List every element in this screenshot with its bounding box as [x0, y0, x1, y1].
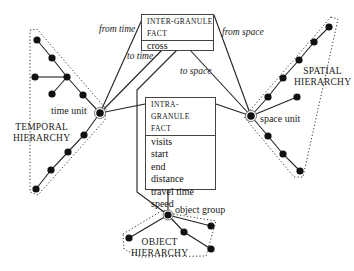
measure-cross: cross: [142, 41, 213, 51]
measure-end: end: [146, 161, 215, 173]
label-from-space: from space: [222, 27, 264, 37]
measure-travel-time: travel time: [146, 186, 215, 198]
inter-granule-title: INTER-GRANULE: [142, 16, 213, 28]
measure-start: start: [146, 148, 215, 160]
measure-distance: distance: [146, 173, 215, 185]
object-hierarchy-label: OBJECT HIERARCHY: [131, 237, 188, 259]
edge-intra-time: [100, 104, 145, 113]
label-time-unit: time unit: [51, 105, 87, 116]
intra-granule-fact-box: INTRA-GRANULE FACT visits start end dist…: [145, 97, 216, 190]
label-from-time: from time: [99, 24, 135, 34]
intra-granule-fact-label: FACT: [146, 123, 215, 135]
inter-granule-fact-label: FACT: [142, 28, 213, 40]
label-to-space: to space: [180, 66, 211, 76]
spatial-hierarchy-label: SPATIAL HIERARCHY: [294, 66, 351, 88]
spatial-hierarchy-outline: [244, 17, 338, 177]
inter-granule-fact-box: INTER-GRANULE FACT cross: [141, 14, 214, 51]
label-object-group: object group: [175, 204, 225, 215]
intra-granule-title: INTRA-GRANULE: [146, 99, 215, 123]
label-space-unit: space unit: [260, 113, 300, 124]
temporal-hierarchy-label: TEMPORAL HIERARCHY: [13, 122, 70, 144]
label-to-time: to time: [127, 51, 153, 61]
measure-visits: visits: [146, 136, 215, 148]
